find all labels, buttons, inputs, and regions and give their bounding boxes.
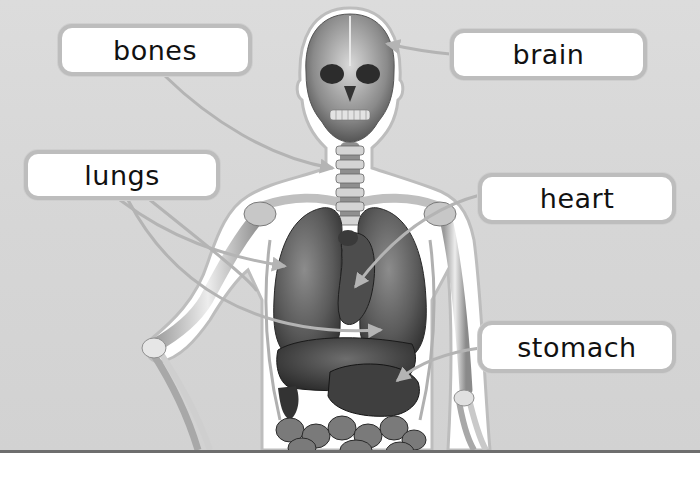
label-heart: heart [478, 173, 676, 224]
label-heart-text: heart [540, 183, 614, 214]
intestines [276, 416, 426, 450]
label-brain-text: brain [513, 39, 585, 70]
spine [336, 142, 364, 225]
label-bones-text: bones [113, 35, 197, 66]
label-lungs: lungs [24, 150, 220, 200]
label-bones: bones [58, 24, 252, 76]
label-lungs-text: lungs [84, 160, 159, 191]
diagram-panel: bones brain lungs heart stomach [0, 0, 700, 450]
label-stomach: stomach [478, 321, 676, 373]
blank-footer-area [0, 453, 700, 483]
label-brain: brain [450, 29, 647, 80]
label-stomach-text: stomach [517, 332, 636, 363]
